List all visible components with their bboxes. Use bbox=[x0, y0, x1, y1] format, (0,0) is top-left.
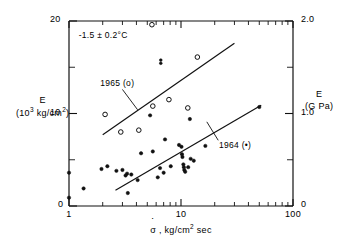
x-axis-tick-label-10: 10 bbox=[176, 209, 187, 219]
leader-line-1965 bbox=[122, 89, 137, 109]
data-point-series-1-9 bbox=[126, 191, 129, 194]
stray-mark-0-top bbox=[159, 59, 162, 62]
data-points-group bbox=[67, 22, 261, 199]
data-point-series-0-2 bbox=[118, 130, 123, 135]
data-point-series-1-27 bbox=[183, 170, 186, 173]
data-point-series-1-0 bbox=[67, 171, 70, 174]
data-point-series-1-29 bbox=[188, 117, 191, 120]
y-axis-title-units: (103 kg/cm2) bbox=[16, 108, 69, 118]
x-axis-title: σ , kg/cm2 sec bbox=[133, 223, 229, 236]
data-point-series-0-1 bbox=[103, 112, 108, 117]
data-point-series-1-28 bbox=[187, 165, 190, 168]
stray-mark-0-bottom bbox=[159, 62, 162, 65]
x-axis-tick-label-1: 1 bbox=[66, 209, 71, 219]
legend-annotation-1964: 1964 (•) bbox=[219, 140, 251, 150]
data-point-series-1-31 bbox=[192, 159, 195, 162]
data-point-series-1-11 bbox=[136, 178, 139, 181]
data-point-series-1-5 bbox=[115, 169, 118, 172]
y-axis-tick-label-0: 0 bbox=[58, 199, 63, 209]
data-point-series-0-4 bbox=[150, 104, 155, 109]
data-point-series-1-2 bbox=[82, 187, 85, 190]
data-point-series-0-3 bbox=[137, 128, 142, 133]
data-point-series-1-23 bbox=[181, 155, 184, 158]
data-point-series-1-14 bbox=[151, 150, 154, 153]
data-point-series-1-32 bbox=[204, 144, 207, 147]
data-point-series-1-6 bbox=[121, 168, 124, 171]
data-point-series-1-16 bbox=[158, 166, 161, 169]
data-point-series-1-18 bbox=[163, 138, 166, 141]
data-point-series-1-10 bbox=[130, 173, 133, 176]
y2-axis-title: E (G Pa) bbox=[305, 88, 333, 112]
temperature-annotation: -1.5 ± 0.2°C bbox=[79, 30, 128, 40]
data-point-series-1-12 bbox=[139, 152, 142, 155]
y2-axis-title-units: (G Pa) bbox=[305, 101, 333, 111]
data-point-series-1-3 bbox=[100, 167, 103, 170]
data-point-series-1-8 bbox=[125, 172, 128, 175]
data-point-series-0-7 bbox=[195, 55, 200, 60]
data-point-series-1-21 bbox=[180, 145, 183, 148]
data-point-series-0-0 bbox=[150, 22, 155, 27]
data-point-series-1-19 bbox=[169, 165, 172, 168]
fit-line-series-0 bbox=[103, 43, 235, 135]
legend-annotation-1965: 1965 (o) bbox=[100, 78, 134, 88]
x-axis-tick-label-100: 100 bbox=[285, 209, 301, 219]
data-point-series-1-1 bbox=[67, 196, 70, 199]
leader-lines-group bbox=[122, 89, 218, 140]
y-axis-tick-label-20: 20 bbox=[50, 14, 61, 24]
y-axis-title-symbol: E bbox=[40, 95, 46, 105]
fit-lines-group bbox=[103, 43, 261, 190]
data-point-series-1-33 bbox=[258, 105, 261, 108]
y-axis-title: E (103 kg/cm2) bbox=[16, 94, 69, 119]
sigma-dot-symbol: σ bbox=[150, 224, 156, 236]
y2-axis-tick-label-0: 0 bbox=[301, 199, 306, 209]
data-point-series-1-4 bbox=[106, 165, 109, 168]
figure-container: 20 10 0 2.0 1.0 0 1 10 100 E (103 kg/cm2… bbox=[0, 0, 357, 242]
data-point-series-0-6 bbox=[185, 106, 190, 111]
data-point-series-1-15 bbox=[156, 176, 159, 179]
y2-axis-title-symbol: E bbox=[316, 89, 322, 99]
data-point-series-1-30 bbox=[189, 157, 192, 160]
data-point-series-1-17 bbox=[162, 171, 165, 174]
data-point-series-1-13 bbox=[148, 114, 151, 117]
data-point-series-0-5 bbox=[167, 97, 172, 102]
x-axis-title-units: , kg/cm2 sec bbox=[156, 225, 212, 235]
y2-axis-tick-label-2-0: 2.0 bbox=[301, 14, 314, 24]
